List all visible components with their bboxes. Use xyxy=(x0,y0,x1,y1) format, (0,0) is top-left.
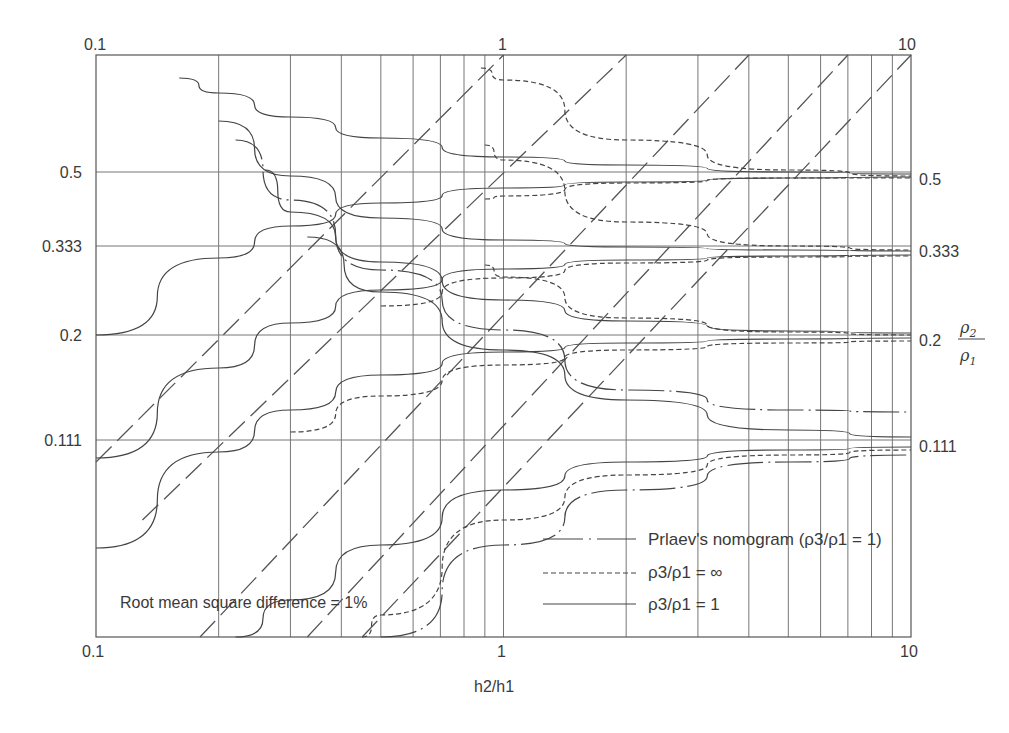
rms-isoline xyxy=(96,55,504,462)
curve xyxy=(481,68,911,176)
y-tick-left-0.111: 0.111 xyxy=(44,432,82,449)
curve xyxy=(381,256,911,306)
y-axis-title: ρ2 ρ1 xyxy=(958,318,985,368)
y-tick-right-0.111: 0.111 xyxy=(919,438,957,455)
legend-label-one: ρ3/ρ1 = 1 xyxy=(648,595,720,614)
rms-isoline xyxy=(142,55,626,520)
chart: 0.1 1 10 0.1 1 10 h2/h1 0.5 0.333 0.2 0.… xyxy=(0,0,1009,733)
legend-label-prlaev: Prlaev's nomogram (ρ3/ρ1 = 1) xyxy=(648,530,882,549)
y-tick-left-0.5: 0.5 xyxy=(60,164,82,181)
vertical-gridlines xyxy=(219,55,893,637)
x-tick-bottom-1: 1 xyxy=(497,643,506,660)
legend: Prlaev's nomogram (ρ3/ρ1 = 1) ρ3/ρ1 = ∞ … xyxy=(543,530,882,614)
rms-isoline xyxy=(200,55,749,637)
curve xyxy=(290,341,911,432)
y-tick-left-0.333: 0.333 xyxy=(42,238,82,255)
x-axis-title: h2/h1 xyxy=(474,678,514,695)
svg-text:ρ2: ρ2 xyxy=(959,318,976,340)
rms-annotation: Root mean square difference = 1% xyxy=(120,594,367,611)
x-tick-top-0.1: 0.1 xyxy=(84,36,106,53)
svg-text:ρ1: ρ1 xyxy=(959,346,976,368)
x-tick-bottom-0.1: 0.1 xyxy=(82,643,104,660)
legend-label-infinity: ρ3/ρ1 = ∞ xyxy=(648,563,722,582)
y-tick-right-0.5: 0.5 xyxy=(919,171,941,188)
curve xyxy=(179,78,911,174)
x-tick-bottom-10: 10 xyxy=(900,643,918,660)
x-tick-top-1: 1 xyxy=(498,36,507,53)
y-tick-left-0.2: 0.2 xyxy=(60,327,82,344)
y-tick-right-0.333: 0.333 xyxy=(919,243,959,260)
curve xyxy=(236,140,911,412)
rms-isoline xyxy=(307,55,848,637)
y-tick-right-0.2: 0.2 xyxy=(919,332,941,349)
x-tick-top-10: 10 xyxy=(898,36,916,53)
